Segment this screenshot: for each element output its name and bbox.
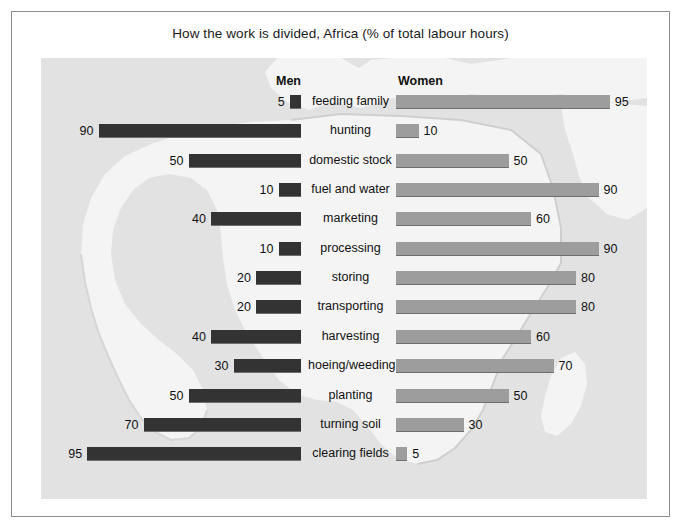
figure-frame: How the work is divided, Africa (% of to… <box>11 11 670 517</box>
africa-map-svg <box>41 58 647 499</box>
africa-map-background <box>41 58 647 499</box>
chart-title: How the work is divided, Africa (% of to… <box>12 26 669 41</box>
